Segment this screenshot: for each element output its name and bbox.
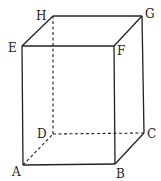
prism-diagram: H G E F D C A B: [0, 0, 161, 181]
vertex-label-f: F: [117, 44, 125, 58]
vertex-label-d: D: [37, 127, 47, 141]
edge-fg: [114, 16, 142, 46]
vertex-label-c: C: [147, 127, 156, 141]
vertex-label-e: E: [8, 41, 17, 55]
edge-fb: [114, 46, 115, 164]
edge-ab: [23, 164, 115, 165]
vertex-label-h: H: [36, 9, 46, 23]
edge-bc: [115, 133, 144, 164]
edge-cg: [142, 16, 144, 133]
vertex-label-a: A: [11, 165, 21, 179]
vertex-label-b: B: [116, 167, 125, 181]
edge-ea: [22, 46, 23, 165]
vertex-label-g: G: [145, 7, 155, 21]
hidden-edge-dc: [53, 133, 144, 134]
